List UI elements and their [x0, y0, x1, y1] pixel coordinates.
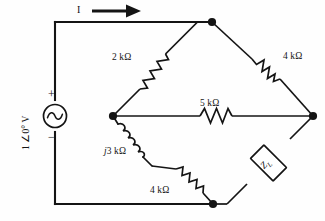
ac-source-symbol [44, 105, 67, 128]
arm-5k [113, 109, 313, 124]
resistor-4k-top-label: 4 kΩ [283, 52, 302, 62]
lead-2k-lower [113, 89, 140, 116]
node-dots [109, 18, 317, 208]
inductor-j3k-label: j3 kΩ [104, 147, 126, 157]
circuit-diagram-canvas: 1 ∠0° V + − I 2 kΩ 4 kΩ 5 kΩ j3 kΩ 4 kΩ … [0, 0, 325, 221]
zigzag-5k [200, 109, 232, 124]
lead-load-upper [290, 116, 313, 139]
resistor-5k-label: 5 kΩ [200, 99, 219, 109]
source-minus-sign: − [48, 131, 55, 143]
lead-j3k-lower [143, 157, 152, 166]
inductor-j3k-label-rest: 3 kΩ [107, 146, 126, 156]
arm-2k [113, 23, 197, 117]
resistor-2k-label: 2 kΩ [112, 53, 131, 63]
current-arrow-head [126, 5, 141, 18]
arm-j3k [113, 116, 152, 166]
lead-4kbot-upper [152, 166, 176, 169]
lead-load-lower [227, 184, 247, 204]
lead-2k-upper [166, 23, 198, 55]
node-left-middle-dot [109, 112, 117, 120]
node-top-dot [208, 18, 216, 26]
arm-4k-top [212, 22, 313, 116]
resistor-4k-bottom-label: 4 kΩ [150, 186, 169, 196]
lead-4ktop-lower [280, 79, 313, 116]
source-label: 1 ∠0° V [22, 116, 32, 150]
node-bottom-dot [209, 200, 217, 208]
current-arrow [92, 5, 141, 18]
lead-4ktop-upper [212, 22, 252, 59]
zigzag-4k-top [252, 59, 280, 82]
zigzag-4k-bottom [176, 167, 204, 193]
node-right-dot [309, 112, 317, 120]
source-plus-sign: + [48, 88, 55, 100]
current-label: I [77, 5, 80, 15]
zigzag-2k [140, 54, 169, 89]
